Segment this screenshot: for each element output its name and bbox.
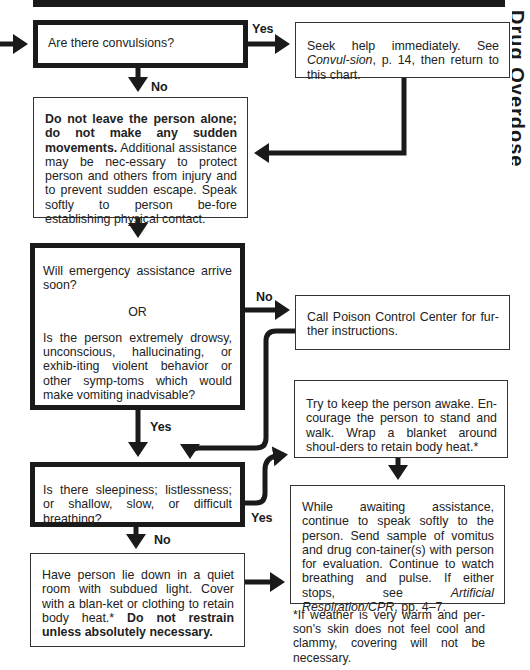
footnote: *If weather is very warm and per-son's s…: [293, 608, 485, 665]
emergency-question-2: Is the person extremely drowsy, unconsci…: [43, 331, 232, 402]
seek-help-text: Seek help immediately. See Convul-sion, …: [307, 39, 499, 82]
side-tab: Drug Overdose: [512, 0, 530, 330]
node-convulsions: Are there convulsions?: [33, 20, 248, 68]
node-do-not-leave: Do not leave the person alone; do not ma…: [33, 97, 248, 218]
convulsions-question: Are there convulsions?: [48, 36, 235, 50]
label-no-sleepiness: No: [154, 533, 171, 547]
label-no-convulsions: No: [151, 80, 168, 94]
node-awaiting-assistance: While awaiting assistance, continue to s…: [290, 485, 505, 604]
emergency-question-1: Will emergency assistance arrive soon?: [43, 264, 232, 293]
label-yes-convulsions: Yes: [252, 22, 274, 36]
keep-awake-text: Try to keep the person awake. En-courage…: [306, 397, 497, 454]
header-bar: [33, 0, 505, 7]
node-poison-control: Call Poison Control Center for fur-ther …: [295, 295, 510, 350]
node-seek-help: Seek help immediately. See Convul-sion, …: [295, 22, 510, 78]
awaiting-text: While awaiting assistance, continue to s…: [302, 500, 494, 614]
node-lie-down: Have person lie down in a quiet room wit…: [30, 553, 245, 647]
node-keep-awake: Try to keep the person awake. En-courage…: [294, 380, 508, 458]
do-not-leave-text: Do not leave the person alone; do not ma…: [45, 112, 237, 226]
emergency-or: OR: [43, 305, 232, 319]
label-yes-sleepiness: Yes: [251, 511, 273, 525]
node-sleepiness: Is there sleepiness; listlessness; or sh…: [30, 462, 245, 527]
node-emergency: Will emergency assistance arrive soon? O…: [30, 243, 245, 410]
label-yes-emergency: Yes: [150, 420, 172, 434]
sleepiness-question: Is there sleepiness; listlessness; or sh…: [43, 483, 232, 526]
label-no-emergency: No: [256, 290, 273, 304]
lie-down-text: Have person lie down in a quiet room wit…: [42, 568, 234, 639]
side-tab-label: Drug Overdose: [512, 10, 528, 167]
poison-control-text: Call Poison Control Center for fur-ther …: [307, 310, 499, 339]
